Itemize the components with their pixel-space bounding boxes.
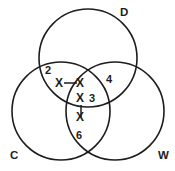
region-count-c-and-w: 6 bbox=[76, 129, 82, 141]
x-mark-upper-center: X bbox=[76, 76, 84, 90]
x-mark-outer-left: X bbox=[55, 76, 63, 90]
set-label-c: C bbox=[10, 149, 18, 161]
x-mark-lower-center: X bbox=[76, 110, 84, 124]
region-count-center-right: 3 bbox=[89, 92, 95, 104]
venn-diagram-canvas: D C W 2 4 3 6 X X X X bbox=[0, 0, 175, 171]
x-mark-middle-center: X bbox=[76, 91, 84, 105]
set-label-w: W bbox=[158, 149, 169, 161]
venn-diagram-svg: D C W 2 4 3 6 X X X X bbox=[0, 0, 175, 171]
circle-set-d bbox=[39, 9, 137, 107]
region-count-d-and-w: 4 bbox=[106, 73, 113, 85]
set-label-d: D bbox=[120, 6, 128, 18]
region-count-c-and-d: 2 bbox=[45, 64, 51, 76]
